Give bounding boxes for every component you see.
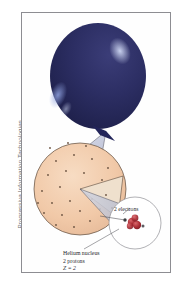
figure-root: Progressive Information Technologies [0,0,183,289]
nucleus-label-line-2: 2 protons [63,258,100,266]
illustration-artwork [22,13,170,272]
neutron-sphere-1 [132,215,139,222]
proton-sphere-2 [133,221,141,229]
illustration-plate-frame: 2 electrons Helium nucleus 2 protons Z =… [21,12,171,273]
electron-dot-2 [142,225,145,228]
nucleus-label-line-1: Helium nucleus [63,250,100,258]
neutron-sphere-2 [127,223,133,229]
nucleus-label-line-3: Z = 2 [63,265,100,273]
electrons-label: 2 electrons [114,206,138,212]
helium-balloon [45,23,146,141]
nucleus-caption-block: Helium nucleus 2 protons Z = 2 [63,250,100,273]
